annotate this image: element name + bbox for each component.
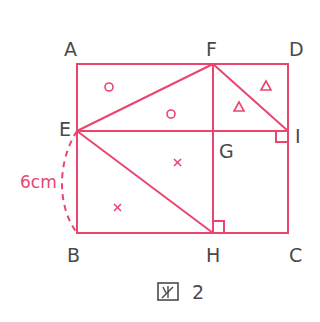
label-h: H: [206, 244, 220, 266]
label-d: D: [289, 38, 304, 60]
segment-fi: [213, 64, 288, 131]
right-angle-mark-h: [213, 221, 224, 233]
measurement-arc-eb: [62, 131, 77, 233]
cross-mark-1: [174, 159, 181, 166]
caption-number: 2: [192, 281, 204, 303]
label-b: B: [67, 244, 80, 266]
geometry-figure: A F D E G I B H C 6cm 2: [0, 0, 320, 322]
label-c: C: [289, 244, 302, 266]
circle-mark-2: [167, 110, 175, 118]
label-i: I: [295, 125, 301, 147]
right-angle-mark-i: [276, 131, 288, 142]
label-g: G: [219, 140, 234, 162]
triangle-mark-1: [261, 81, 271, 90]
rectangle-abcd: [77, 64, 288, 233]
label-a: A: [64, 38, 77, 60]
circle-mark-1: [105, 83, 113, 91]
segment-ef: [77, 64, 213, 131]
label-e: E: [59, 118, 71, 140]
label-f: F: [206, 38, 217, 60]
segment-eh: [77, 131, 213, 233]
cross-mark-2: [114, 204, 121, 211]
measurement-label: 6cm: [20, 172, 57, 192]
triangle-mark-2: [234, 102, 244, 111]
caption-box-glyph: [162, 286, 173, 298]
